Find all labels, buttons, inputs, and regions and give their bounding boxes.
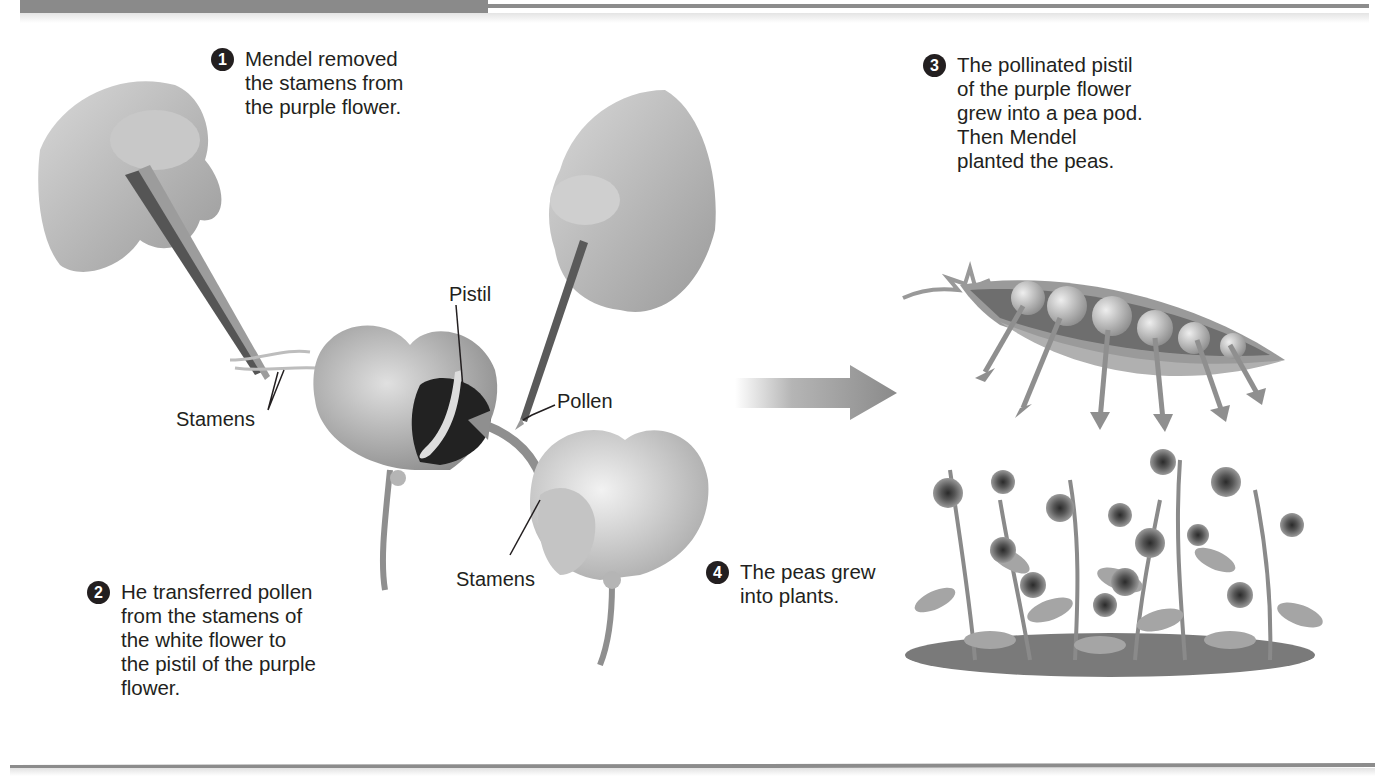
step-text-line: from the stamens of — [121, 604, 316, 628]
label-pistil: Pistil — [449, 283, 491, 305]
label-pollen: Pollen — [557, 390, 613, 412]
step-2: 2 He transferred pollen from the stamens… — [121, 580, 316, 700]
step-4: 4 The peas grew into plants. — [740, 560, 876, 608]
step-number-badge: 1 — [211, 48, 234, 71]
step-text-line: the purple flower. — [245, 95, 403, 119]
step-text-line: of the purple flower — [957, 77, 1143, 101]
step-text-line: planted the peas. — [957, 149, 1143, 173]
step-number-badge: 4 — [706, 561, 729, 584]
hand-with-paintbrush-icon — [515, 90, 716, 430]
pea-pod-icon — [903, 268, 1285, 432]
label-stamens-left: Stamens — [176, 408, 255, 430]
step-3: 3 The pollinated pistil of the purple fl… — [957, 53, 1143, 173]
step-text-line: grew into a pea pod. — [957, 101, 1143, 125]
step-text-line: flower. — [121, 676, 316, 700]
step-text-line: the stamens from — [245, 71, 403, 95]
pea-plants-icon — [905, 449, 1326, 677]
step-number-badge: 2 — [87, 581, 110, 604]
hand-with-tweezers-icon — [38, 81, 318, 380]
step-number-badge: 3 — [923, 54, 946, 77]
step-text-line: He transferred pollen — [121, 580, 316, 604]
step-text-line: the pistil of the purple — [121, 652, 316, 676]
step-1: 1 Mendel removed the stamens from the pu… — [245, 47, 403, 119]
step-text-line: Then Mendel — [957, 125, 1143, 149]
footer-shadow — [10, 768, 1375, 776]
purple-pea-flower-icon — [313, 326, 497, 590]
step-text-line: the white flower to — [121, 628, 316, 652]
step-text-line: into plants. — [740, 584, 876, 608]
step-text-line: The peas grew — [740, 560, 876, 584]
step-text-line: Mendel removed — [245, 47, 403, 71]
right-arrow-icon — [735, 365, 897, 420]
white-pea-flower-icon — [530, 430, 708, 665]
label-stamens-right: Stamens — [456, 568, 535, 590]
step-text-line: The pollinated pistil — [957, 53, 1143, 77]
